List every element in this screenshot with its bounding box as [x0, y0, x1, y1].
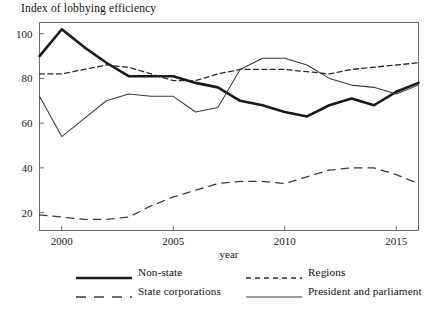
- series-line-president-and-parliament: [40, 58, 419, 136]
- x-tick-label: 2015: [385, 235, 408, 247]
- series-line-state-corporations: [40, 168, 419, 219]
- legend-label-president-and-parliament: President and parliament: [308, 285, 422, 297]
- legend-label-state-corporations: State corporations: [138, 285, 221, 297]
- line-chart-plot: 20406080100 2000200520102015 year: [0, 0, 431, 311]
- y-tick-label: 20: [22, 207, 34, 219]
- x-tick-label: 2010: [274, 235, 297, 247]
- series-line-non-state: [40, 29, 419, 116]
- x-tick-label: 2000: [51, 235, 74, 247]
- legend-label-non-state: Non-state: [138, 266, 182, 278]
- legend-swatch-president-and-parliament: [245, 291, 303, 303]
- x-axis-ticks: 2000200520102015: [51, 226, 408, 247]
- series-layer: [40, 29, 419, 219]
- plot-frame: [40, 23, 419, 231]
- y-tick-label: 60: [22, 117, 34, 129]
- legend-swatch-non-state: [75, 272, 133, 284]
- x-tick-label: 2005: [162, 235, 185, 247]
- y-tick-label: 100: [16, 28, 33, 40]
- series-line-regions: [40, 63, 419, 81]
- legend-swatch-regions: [245, 272, 303, 284]
- y-tick-label: 80: [22, 72, 34, 84]
- legend-swatch-state-corporations: [75, 291, 133, 303]
- chart-figure: Index of lobbying efficiency 20406080100…: [0, 0, 431, 311]
- legend-label-regions: Regions: [308, 266, 345, 278]
- y-tick-label: 40: [22, 162, 34, 174]
- x-axis-title: year: [220, 248, 239, 260]
